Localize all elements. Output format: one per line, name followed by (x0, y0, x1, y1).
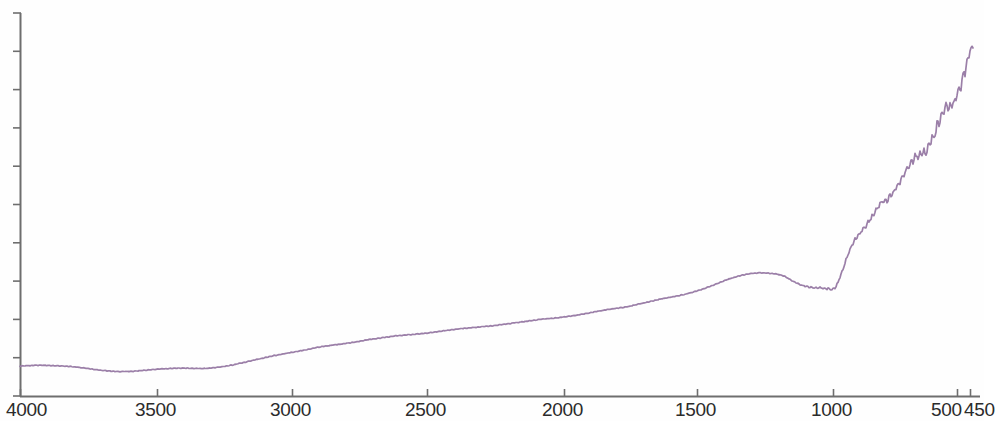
x-tick-label: 2500 (405, 399, 446, 421)
x-tick-label: 450 (964, 399, 995, 421)
axes-group (13, 13, 980, 397)
spectrum-trace (20, 46, 973, 372)
x-tick-label: 4000 (6, 399, 47, 421)
x-tick-label: 1500 (675, 399, 716, 421)
x-tick-label: 500 (931, 399, 962, 421)
x-tick-label: 2000 (542, 399, 583, 421)
x-tick-label: 3500 (135, 399, 176, 421)
x-tick-label: 1000 (811, 399, 852, 421)
x-tick-label: 3000 (270, 399, 311, 421)
